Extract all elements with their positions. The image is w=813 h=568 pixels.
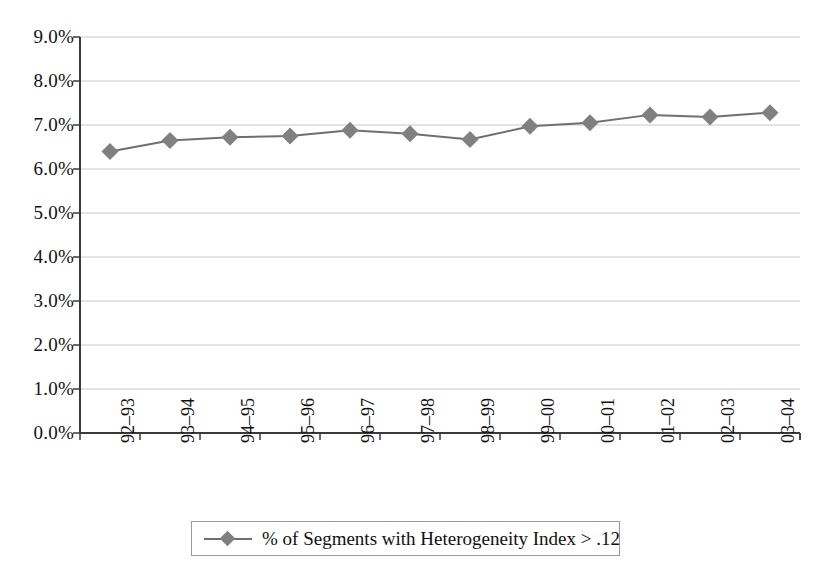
x-axis-tick-label: 02–03 — [719, 363, 737, 443]
legend-entry: % of Segments with Heterogeneity Index >… — [192, 529, 620, 548]
x-axis-tick-label: 03–04 — [779, 363, 797, 443]
x-axis-tick-label: 01–02 — [659, 363, 677, 443]
x-axis-tick-label: 95–96 — [299, 363, 317, 443]
x-axis-tick-label: 98–99 — [479, 363, 497, 443]
x-axis-tick-label: 96–97 — [359, 363, 377, 443]
legend-diamond-marker-icon — [204, 531, 252, 547]
chart-legend: % of Segments with Heterogeneity Index >… — [191, 521, 620, 556]
x-axis-tick-label: 92–93 — [119, 363, 137, 443]
x-axis-tick-labels: 92–9393–9494–9595–9696–9797–9898–9999–00… — [0, 0, 813, 568]
x-axis-tick-label: 97–98 — [419, 363, 437, 443]
x-axis-tick-label: 93–94 — [179, 363, 197, 443]
legend-entry-label: % of Segments with Heterogeneity Index >… — [262, 529, 620, 548]
line-chart: 9.0%8.0%7.0%6.0%5.0%4.0%3.0%2.0%1.0%0.0%… — [0, 0, 813, 568]
x-axis-tick-label: 00–01 — [599, 363, 617, 443]
x-axis-tick-label: 94–95 — [239, 363, 257, 443]
x-axis-tick-label: 99–00 — [539, 363, 557, 443]
